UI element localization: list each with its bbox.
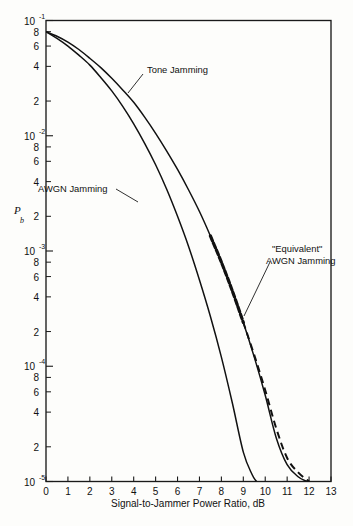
series-awgn-jamming xyxy=(46,32,256,482)
y-minor-tick-label: 6 xyxy=(33,387,39,398)
tone-jamming-leader-line xyxy=(128,74,143,93)
y-minor-tick-label: 4 xyxy=(33,407,39,418)
x-tick-label: 4 xyxy=(131,486,137,497)
x-tick-label: 0 xyxy=(43,486,49,497)
y-decade-mantissa: 10 xyxy=(24,246,36,257)
y-decade-exponent: -4 xyxy=(39,358,45,365)
awgn-jamming-leader-line xyxy=(116,189,138,202)
annotation-equivalent-awgn-line2: AWGN Jamming xyxy=(266,255,335,266)
annotation-awgn-jamming: AWGN Jamming xyxy=(38,183,107,194)
y-axis-title: P b xyxy=(13,204,24,225)
y-minor-tick-label: 4 xyxy=(33,292,39,303)
x-tick-label: 11 xyxy=(282,486,293,497)
x-tick-label: 9 xyxy=(241,486,247,497)
x-tick-label: 2 xyxy=(87,486,93,497)
x-tick-label: 10 xyxy=(260,486,272,497)
figure-container: 10-1864210-2864210-3864210-4864210-5 012… xyxy=(0,0,353,526)
y-axis-tick-labels: 10-1864210-2864210-3864210-4864210-5 xyxy=(24,13,45,488)
y-decade-mantissa: 10 xyxy=(24,361,36,372)
x-tick-label: 8 xyxy=(219,486,225,497)
y-decade-label: 10-2 xyxy=(24,128,45,142)
x-axis-title: Signal-to-Jammer Power Ratio, dB xyxy=(111,498,265,509)
y-minor-tick-label: 4 xyxy=(33,61,39,72)
y-decade-label: 10-5 xyxy=(24,474,45,488)
x-tick-label: 7 xyxy=(197,486,203,497)
y-minor-tick-label: 6 xyxy=(33,41,39,52)
y-decade-exponent: -2 xyxy=(39,128,45,135)
y-minor-tick-label: 8 xyxy=(33,257,39,268)
y-minor-tick-label: 6 xyxy=(33,156,39,167)
x-tick-label: 5 xyxy=(153,486,159,497)
svg-text:b: b xyxy=(20,216,24,225)
y-decade-mantissa: 10 xyxy=(24,477,36,488)
y-decade-label: 10-4 xyxy=(24,358,45,372)
y-minor-tick-label: 8 xyxy=(33,27,39,38)
y-decade-label: 10-1 xyxy=(24,13,45,27)
annotation-equivalent-awgn-line1: "Equivalent" xyxy=(272,243,322,254)
x-axis-tick-labels: 012345678910111213 xyxy=(43,486,337,497)
x-axis-ticks xyxy=(46,477,331,482)
y-decade-mantissa: 10 xyxy=(24,16,36,27)
y-decade-exponent: -5 xyxy=(39,474,45,481)
y-minor-tick-label: 2 xyxy=(33,327,39,338)
y-minor-tick-label: 8 xyxy=(33,142,39,153)
y-minor-tick-label: 2 xyxy=(33,96,39,107)
y-axis-ticks xyxy=(46,21,53,482)
y-minor-tick-label: 8 xyxy=(33,372,39,383)
y-minor-tick-label: 2 xyxy=(33,442,39,453)
equivalent-awgn-leader-line xyxy=(244,262,270,316)
annotation-tone-jamming: Tone Jamming xyxy=(147,64,208,75)
x-tick-label: 6 xyxy=(175,486,181,497)
y-minor-tick-label: 2 xyxy=(33,211,39,222)
y-minor-tick-label: 6 xyxy=(33,272,39,283)
y-decade-exponent: -1 xyxy=(39,13,45,20)
x-tick-label: 12 xyxy=(304,486,316,497)
x-tick-label: 3 xyxy=(109,486,115,497)
y-decade-exponent: -3 xyxy=(39,243,45,250)
semilog-chart: 10-1864210-2864210-3864210-4864210-5 012… xyxy=(0,0,353,526)
y-decade-label: 10-3 xyxy=(24,243,45,257)
y-decade-mantissa: 10 xyxy=(24,131,36,142)
svg-text:P: P xyxy=(13,204,21,216)
x-tick-label: 13 xyxy=(325,486,337,497)
series-overlap-segment xyxy=(210,236,243,322)
x-tick-label: 1 xyxy=(65,486,71,497)
